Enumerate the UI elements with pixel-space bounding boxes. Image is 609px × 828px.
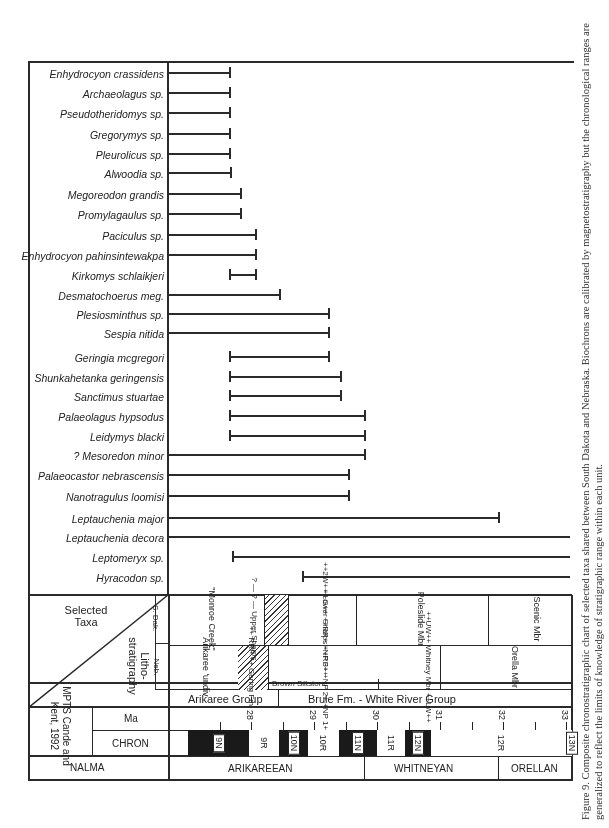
range-cap-start — [302, 572, 304, 583]
neb-divider-2 — [440, 646, 441, 690]
chron-column: 9N9R10N10R11N11R12N12R13N — [168, 730, 572, 756]
range-cap-end — [229, 149, 231, 160]
range-bar — [230, 435, 365, 437]
ma-tick-label: 29 — [307, 710, 319, 720]
range-bar — [168, 172, 231, 174]
chron-10R: 10R — [308, 730, 340, 756]
ma-tick — [472, 722, 473, 730]
range-bar — [230, 274, 256, 276]
lower-sharps-label: ++2W++ Lower Sharps ++RF++ — [319, 562, 331, 676]
ma-tick — [283, 722, 284, 730]
arikaree-group: Arikaree Group — [168, 690, 279, 707]
monroe-creek-label: "Monroe Creek" — [206, 587, 218, 650]
chron-12N: 12N — [405, 730, 430, 756]
poleslide-mbr-label: Poleslide Mbr — [415, 592, 427, 647]
range-bar — [168, 517, 499, 519]
upper-sharps-label: ? — ? — Upper Sharps — [248, 577, 260, 660]
range-bar — [168, 454, 365, 456]
range-cap-end — [240, 209, 242, 220]
range-cap-end — [364, 450, 366, 461]
ma-tick-label: 30 — [370, 710, 382, 720]
range-bar — [303, 576, 570, 578]
range-cap-end — [279, 290, 281, 301]
chron-label: 9R — [259, 735, 269, 751]
range-bar — [168, 495, 349, 497]
sdak-divider-3 — [488, 595, 489, 645]
sdak-header: S. Dak. — [149, 605, 161, 631]
range-bar — [168, 234, 256, 236]
ma-tick-label: 32 — [496, 710, 508, 720]
range-cap-end — [328, 328, 330, 339]
lithostratigraphy-header: Litho-stratigraphy — [127, 631, 151, 701]
group-row: Arikaree Group Brule Fm. - White River G… — [168, 690, 572, 707]
range-cap-start — [229, 352, 231, 363]
range-cap-end — [229, 88, 231, 99]
figure-caption: Figure 9. Composite chronostratigraphic … — [579, 0, 605, 828]
ma-tick — [503, 722, 504, 730]
nalma-whitneyan: WHITNEYAN — [364, 757, 499, 780]
nalma-orellan-label: ORELLAN — [511, 763, 558, 775]
range-cap-start — [229, 411, 231, 422]
range-bar — [168, 294, 280, 296]
range-cap-end — [340, 391, 342, 402]
neb-header: Neb. — [150, 659, 162, 676]
chronostratigraphic-chart: Enhydrocyon crassidensArchaeolagus sp.Ps… — [0, 0, 609, 828]
chron-label: 10R — [318, 733, 328, 754]
range-cap-start — [232, 552, 234, 563]
sdak-divider-1 — [288, 595, 289, 645]
range-cap-end — [229, 68, 231, 79]
range-bar — [168, 112, 230, 114]
ma-tick — [251, 722, 252, 730]
ma-tick-label: 31 — [433, 710, 445, 720]
ma-tick-label: 33 — [559, 710, 571, 720]
ma-tick — [220, 722, 221, 730]
range-cap-end — [348, 470, 350, 481]
range-cap-end — [229, 108, 231, 119]
sdak-divider-2 — [356, 595, 357, 645]
chron-9N: 9N — [188, 730, 249, 756]
scenic-mbr-label: Scenic Mbr — [531, 596, 543, 641]
ma-header: Ma — [124, 713, 138, 725]
ma-tick — [377, 722, 378, 730]
chron-label: 9N — [213, 734, 225, 752]
range-bar — [168, 213, 241, 215]
chron-label: 11R — [386, 733, 396, 753]
ma-tick — [346, 722, 347, 730]
range-bar — [230, 395, 341, 397]
sdak-divider-0 — [264, 595, 265, 645]
range-cap-end — [230, 168, 232, 179]
range-bar — [168, 332, 329, 334]
selected-taxa-header: Selected Taxa — [56, 604, 116, 628]
chron-label: 11N — [352, 732, 364, 754]
chron-label: 13N — [566, 732, 578, 755]
nalma-arikareean: ARIKAREEAN — [168, 757, 365, 780]
ma-tick — [314, 722, 315, 730]
nalma-orellan: ORELLAN — [499, 757, 572, 780]
chron-9R: 9R — [249, 730, 279, 756]
range-bar — [230, 415, 365, 417]
chron-label: 12R — [496, 733, 506, 754]
range-bar — [168, 72, 230, 74]
nalma-arikareean-label: ARIKAREEAN — [228, 763, 292, 775]
range-bar — [168, 153, 230, 155]
range-cap-end — [240, 189, 242, 200]
range-bar — [168, 193, 241, 195]
chron-label: 10N — [288, 732, 300, 755]
range-cap-end — [255, 250, 257, 261]
range-bar — [168, 92, 230, 94]
range-cap-end — [255, 270, 257, 281]
range-cap-end — [364, 431, 366, 442]
range-cap-end — [255, 230, 257, 241]
range-cap-start — [229, 270, 231, 281]
ma-tick — [566, 722, 567, 730]
figure: Enhydrocyon crassidensArchaeolagus sp.Ps… — [0, 0, 609, 828]
range-bar — [230, 356, 329, 358]
chron-12R: 12R — [431, 730, 572, 756]
range-bar — [230, 376, 341, 378]
chron-label: 12N — [412, 732, 424, 755]
orella-mbr-label: Orella Mbr — [509, 646, 521, 688]
range-cap-end — [229, 129, 231, 140]
ma-axis: 282930313233 — [168, 708, 572, 730]
nalma-whitneyan-label: WHITNEYAN — [394, 763, 453, 775]
range-cap-end — [328, 309, 330, 320]
